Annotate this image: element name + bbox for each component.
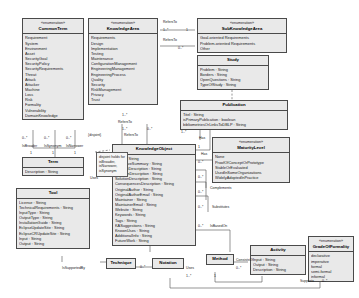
edge-label-complements: Complements [210,186,232,190]
edge-label-uses: Uses [90,176,98,180]
edge-label-is-broader: IsBroader [22,144,37,148]
multiplicity: 0..* [236,266,241,270]
class-publication[interactable]: Publication Titel : String isPrimaryPubl… [180,100,288,130]
edge-ko-complements [196,170,206,188]
class-header: «enumeration» SubKnowledgeArea [198,19,286,34]
literal: Other [200,46,284,51]
multiplicity: 1 [198,145,200,149]
note-text: disjoint holds for isBroader, isNarrower… [99,155,125,173]
class-header: «enumeration» MaturityLevel [213,138,289,153]
multiplicity: 1 [186,28,188,32]
attribute-compartment: Titel : String isPrimaryPublication : bo… [181,111,287,129]
class-study[interactable]: Study Problem : String Borders : String … [197,55,269,90]
class-name: Technique [109,260,133,267]
class-header: Tool [17,189,89,199]
multiplicity: 1..* [163,28,168,32]
multiplicity: 1..* [122,127,127,131]
multiplicity: 1 [30,151,32,155]
class-common-term[interactable]: «enumeration» CommonTerm Requirement Sys… [22,18,84,120]
class-header: Term [23,158,83,168]
multiplicity: 0..* [322,279,327,283]
class-header: «enumeration» KnowledgeArea [89,19,157,34]
class-notation[interactable]: Notation [152,258,184,269]
multiplicity: 0..* [198,190,203,194]
attribute: bibliometriesOrLinksToDBLP : String [183,122,285,127]
attribute: Description : String [253,267,303,272]
multiplicity: 0..* [140,265,145,269]
literal-compartment: Goal-oriented Requirements Problem-orien… [198,34,286,52]
class-name: KnowledgeArea [91,26,155,33]
edge-label-is-supported-by: IsSupportedBy [62,266,85,270]
multiplicity: 0..* [198,160,203,164]
class-name: GradeOfFormality [311,244,351,251]
class-header: Study [198,56,268,66]
multiplicity: 0..* [66,136,71,140]
note-disjoint-constraint: disjoint holds for isBroader, isNarrower… [96,152,128,177]
class-sub-knowledge-area[interactable]: «enumeration» SubKnowledgeArea Goal-orie… [197,18,287,53]
multiplicity: 0..* [198,205,203,209]
edge-label-has: Has [201,152,207,156]
literal-compartment: declarative imperative formal semi-forma… [309,252,353,280]
class-knowledge-area[interactable]: «enumeration» KnowledgeArea Requirements… [88,18,158,105]
class-header: Notation [153,259,183,268]
edge-label-refers-to: RefersTo [163,38,177,42]
attribute-compartment: Problem : String Borders : String OpenQu… [198,66,268,89]
class-header: «enumeration» GradeOfFormality [309,237,353,252]
edge-label-refers-to: RefersTo [124,133,138,137]
multiplicity: 1 [74,151,76,155]
class-technique[interactable]: Technique [106,258,136,269]
class-name: Study [200,57,266,64]
edge-label-substitutes: Substitutes [212,205,229,209]
class-activity[interactable]: Activity Input : String Output : String … [250,245,306,275]
class-term[interactable]: Term Description : String [22,157,84,176]
literal: WidelyAdoptedInPractice [215,175,287,180]
class-name: MaturityLevel [215,145,287,152]
edge-label-consists-of: ConsistsOf [236,258,253,262]
attribute-compartment: License : String TechnicalRequirements :… [17,199,89,248]
edge-label-is-synonym: IsSynonym [44,144,61,148]
class-grade-of-formality[interactable]: «enumeration» GradeOfFormality declarati… [308,236,354,282]
multiplicity: 0..* [198,175,203,179]
class-header: Method [207,255,233,264]
edge-ko-method-2 [196,230,230,252]
multiplicity: 1..* [186,274,191,278]
class-name: Notation [155,260,181,267]
class-name: CommonTerm [25,26,81,33]
class-tool[interactable]: Tool License : String TechnicalRequireme… [16,188,90,249]
class-name: Term [25,159,81,166]
literal: DomainKnowledge [25,113,81,118]
multiplicity: 0..* [22,136,27,140]
class-maturity-level[interactable]: «enumeration» MaturityLevel None ProofOf… [212,137,290,183]
attribute-compartment: Description : String [23,168,83,176]
literal-compartment: Requirement System Environment Asset Sec… [23,34,83,119]
attribute: Description : String [25,169,81,174]
edge-label-is-narrower: IsNarrower [66,144,83,148]
edge-label-refers-to: RefersTo [163,20,177,24]
multiplicity: 0..* [147,127,152,131]
multiplicity: 1..* [181,130,186,134]
literal-compartment: Requirements Design Implementation Testi… [89,34,157,104]
edge-label-is-based-on: IsBasedOn [210,224,227,228]
class-name: Publication [183,102,285,109]
edge-label-supports: Supports [300,279,314,283]
edge-label-disjoint: {disjoint} [88,133,101,137]
class-name: Method [209,256,231,263]
multiplicity: 0..* [178,46,183,50]
class-name: Activity [253,247,303,254]
class-header: Activity [251,246,305,256]
class-header: Publication [181,101,287,111]
edge-label-has: Has [199,136,205,140]
edge-label-refers-to: RefersTo [118,120,132,124]
class-header: Technique [107,259,135,268]
attribute-compartment: Input : String Output : String Descripti… [251,256,305,274]
attribute: FutureWork : String [115,238,193,243]
class-name: Tool [19,190,87,197]
multiplicity: 0..* [44,136,49,140]
class-method[interactable]: Method [206,254,234,265]
class-name: SubKnowledgeArea [200,26,284,33]
diagram-canvas: «enumeration» CommonTerm Requirement Sys… [0,0,359,298]
literal: Trust [91,97,155,102]
attribute: Output : String [19,241,87,246]
literal-compartment: None ProofOfConceptOrPrototype StableOrE… [213,153,289,181]
class-header: «enumeration» CommonTerm [23,19,83,34]
